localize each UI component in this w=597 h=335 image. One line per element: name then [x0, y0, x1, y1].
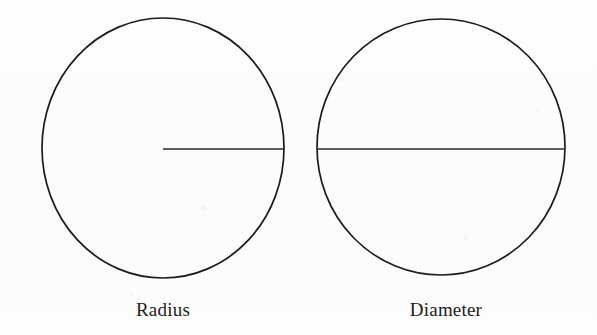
radius-figure-group [42, 18, 284, 278]
radius-label: Radius [0, 300, 326, 319]
diagram-canvas [0, 0, 597, 335]
diameter-label: Diameter [326, 300, 566, 319]
diameter-figure-group [317, 19, 565, 275]
circle-diagram-figure: Radius Diameter [0, 0, 597, 335]
diameter-circle-outline [317, 19, 565, 275]
radius-circle-outline [42, 18, 284, 278]
